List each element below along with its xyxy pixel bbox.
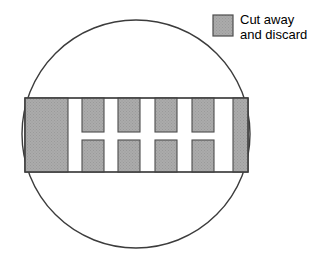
top-tab-4	[192, 98, 214, 132]
legend-swatch-cut-away	[213, 15, 233, 36]
top-tab-2	[118, 98, 140, 132]
top-tab-3	[155, 98, 177, 132]
legend-label-line-2: and discard	[240, 27, 307, 42]
bottom-tab-1	[82, 140, 104, 172]
top-tab-1	[82, 98, 104, 132]
right-solid-block	[233, 98, 248, 172]
left-solid-block	[25, 98, 68, 172]
figure-root: Cut away and discard	[0, 0, 327, 265]
cut-away-diagram: Cut away and discard	[0, 0, 327, 265]
legend-group: Cut away and discard	[213, 12, 307, 42]
bottom-tab-4	[192, 140, 214, 172]
bottom-tab-3	[155, 140, 177, 172]
legend-label-line-1: Cut away	[240, 12, 295, 27]
bottom-tab-2	[118, 140, 140, 172]
